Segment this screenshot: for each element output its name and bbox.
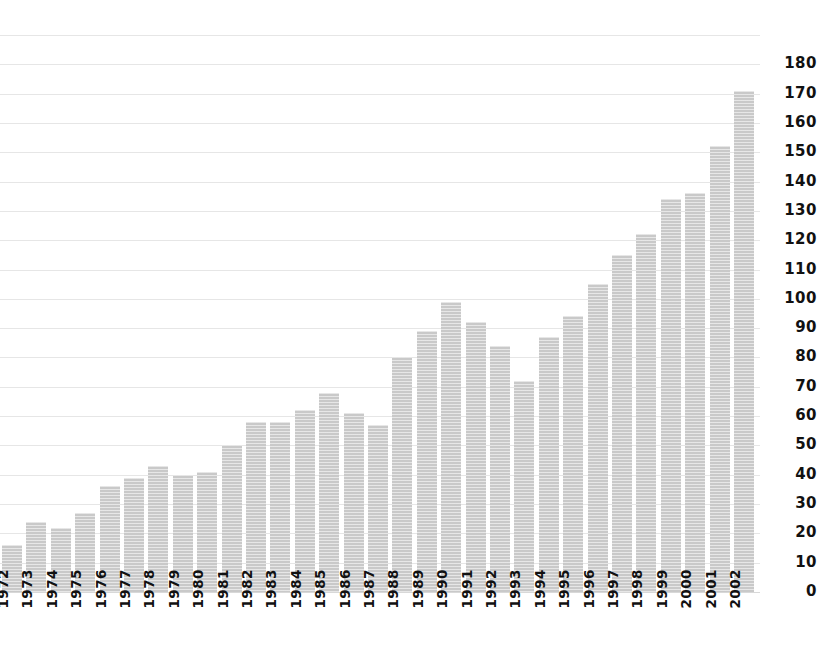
x-axis-tick-label: 1995 — [554, 569, 574, 627]
x-axis-tick-label: 1975 — [66, 569, 86, 627]
y-axis-tick-label: 130 — [765, 203, 817, 218]
y-axis-tick-label: 40 — [765, 467, 817, 482]
bar-series — [0, 0, 760, 594]
x-axis-tick-label: 1984 — [286, 569, 306, 627]
y-axis-tick-label: 100 — [765, 291, 817, 306]
y-axis-tick-label: 140 — [765, 174, 817, 189]
x-axis-tick-label: 1985 — [310, 569, 330, 627]
bar — [441, 302, 461, 592]
x-axis-tick-label: 1978 — [139, 569, 159, 627]
x-axis-tick-label: 2002 — [725, 569, 745, 627]
x-axis-tick-label: 1999 — [652, 569, 672, 627]
bar — [563, 316, 583, 592]
y-axis-tick-label: 70 — [765, 379, 817, 394]
x-axis-tick-label: 1973 — [17, 569, 37, 627]
plot-area — [0, 0, 760, 594]
bar — [368, 425, 388, 592]
bar — [612, 255, 632, 592]
bar — [270, 422, 290, 592]
x-axis-tick-label: 1992 — [481, 569, 501, 627]
y-axis-tick-label: 60 — [765, 408, 817, 423]
x-axis-tick-label: 1981 — [213, 569, 233, 627]
y-axis-tick-label: 10 — [765, 555, 817, 570]
y-axis-tick-label: 30 — [765, 496, 817, 511]
x-axis-tick-label: 1977 — [115, 569, 135, 627]
bar — [392, 357, 412, 592]
x-axis-tick-label: 1996 — [579, 569, 599, 627]
x-axis-tick-label: 1976 — [91, 569, 111, 627]
y-axis-tick-label: 110 — [765, 262, 817, 277]
y-axis-tick-label: 90 — [765, 320, 817, 335]
y-axis-tick-label: 120 — [765, 232, 817, 247]
bar — [319, 393, 339, 592]
x-axis-tick-label: 1994 — [530, 569, 550, 627]
x-axis-tick-label: 1986 — [335, 569, 355, 627]
x-axis-tick-label: 1983 — [261, 569, 281, 627]
x-axis-tick: 2002 — [734, 596, 754, 658]
y-axis-tick-label: 50 — [765, 437, 817, 452]
x-axis-tick-label: 1987 — [359, 569, 379, 627]
x-axis-tick-label: 1982 — [237, 569, 257, 627]
bar — [636, 234, 656, 592]
x-axis-tick-label: 1974 — [42, 569, 62, 627]
x-axis-tick-label: 1997 — [603, 569, 623, 627]
bar — [344, 413, 364, 592]
y-axis-tick-label: 160 — [765, 115, 817, 130]
x-axis-tick-label: 1972 — [0, 569, 13, 627]
x-axis-tick-label: 1979 — [164, 569, 184, 627]
bar — [734, 91, 754, 592]
bar-chart: 0102030405060708090100110120130140150160… — [0, 0, 829, 660]
y-axis-tick-label: 180 — [765, 56, 817, 71]
y-axis-tick-label: 0 — [765, 584, 817, 599]
bar — [539, 337, 559, 592]
bar — [246, 422, 266, 592]
x-axis-tick-label: 1991 — [457, 569, 477, 627]
bar — [588, 284, 608, 592]
y-axis: 0102030405060708090100110120130140150160… — [762, 0, 829, 594]
bar — [710, 146, 730, 592]
bar — [685, 193, 705, 592]
bar — [466, 322, 486, 592]
bar — [295, 410, 315, 592]
x-axis-tick-label: 1989 — [408, 569, 428, 627]
x-axis-tick-label: 1998 — [627, 569, 647, 627]
y-axis-tick-label: 80 — [765, 349, 817, 364]
x-axis: 1972197319741975197619771978197919801981… — [0, 596, 760, 660]
x-axis-tick-label: 1980 — [188, 569, 208, 627]
x-axis-tick-label: 1990 — [432, 569, 452, 627]
bar — [661, 199, 681, 592]
x-axis-tick-label: 2000 — [676, 569, 696, 627]
y-axis-tick-label: 20 — [765, 525, 817, 540]
x-axis-tick-label: 2001 — [701, 569, 721, 627]
bar — [514, 381, 534, 592]
y-axis-tick-label: 170 — [765, 86, 817, 101]
bar — [417, 331, 437, 592]
y-axis-tick-label: 150 — [765, 144, 817, 159]
x-axis-tick-label: 1988 — [383, 569, 403, 627]
bar — [490, 346, 510, 592]
x-axis-tick-label: 1993 — [505, 569, 525, 627]
